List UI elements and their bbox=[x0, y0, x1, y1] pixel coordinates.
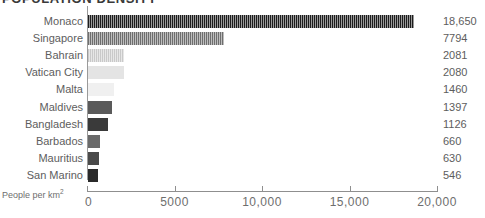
bar-hatch-pattern bbox=[88, 15, 414, 28]
bar-mauritius bbox=[88, 152, 99, 165]
bar-row: Bahrain2081 bbox=[0, 49, 485, 62]
bar-row: Barbados660 bbox=[0, 135, 485, 148]
bar-fill bbox=[88, 135, 100, 148]
x-tick-0 bbox=[87, 186, 88, 192]
bar-san-marino bbox=[88, 169, 98, 182]
population-density-chart: POPULATION DENSITY People per km2 050001… bbox=[0, 0, 485, 218]
bar-row: San Marino546 bbox=[0, 169, 485, 182]
category-label-bangladesh: Bangladesh bbox=[25, 119, 83, 130]
bar-row: Vatican City2080 bbox=[0, 66, 485, 79]
x-tick-label-20000: 20,000 bbox=[417, 195, 457, 209]
value-label-barbados: 660 bbox=[443, 136, 461, 147]
x-tick-5000 bbox=[175, 186, 176, 192]
x-tick-15000 bbox=[350, 186, 351, 192]
x-tick-label-5000: 5000 bbox=[160, 195, 189, 209]
value-label-vatican-city: 2080 bbox=[443, 67, 467, 78]
bar-fill bbox=[88, 83, 114, 96]
bar-barbados bbox=[88, 135, 100, 148]
x-axis-title-text: People per km bbox=[2, 190, 60, 200]
value-label-monaco: 18,650 bbox=[443, 16, 477, 27]
bar-singapore bbox=[88, 32, 224, 45]
category-label-vatican-city: Vatican City bbox=[25, 67, 83, 78]
plot-area: People per km2 0500010,00015,00020,000 M… bbox=[0, 0, 485, 218]
x-axis-title-superscript: 2 bbox=[60, 188, 64, 195]
bar-row: Bangladesh1126 bbox=[0, 118, 485, 131]
x-tick-10000 bbox=[262, 186, 263, 192]
category-label-singapore: Singapore bbox=[33, 33, 83, 44]
bar-fill bbox=[88, 118, 108, 131]
value-label-singapore: 7794 bbox=[443, 33, 467, 44]
category-label-maldives: Maldives bbox=[40, 102, 83, 113]
bar-row: Maldives1397 bbox=[0, 101, 485, 114]
bar-fill bbox=[88, 169, 98, 182]
bar-row: Mauritius630 bbox=[0, 152, 485, 165]
bar-row: Malta1460 bbox=[0, 83, 485, 96]
bar-fill bbox=[88, 66, 124, 79]
bar-hatch-pattern bbox=[88, 32, 224, 45]
bar-row: Monaco18,650 bbox=[0, 15, 485, 28]
bar-fill bbox=[88, 49, 124, 62]
category-label-malta: Malta bbox=[56, 84, 83, 95]
value-label-bangladesh: 1126 bbox=[443, 119, 467, 130]
x-tick-label-10000: 10,000 bbox=[242, 195, 282, 209]
value-label-maldives: 1397 bbox=[443, 102, 467, 113]
x-tick-20000 bbox=[437, 186, 438, 192]
bar-malta bbox=[88, 83, 114, 96]
bar-vatican-city bbox=[88, 66, 124, 79]
x-axis-title: People per km2 bbox=[2, 188, 64, 200]
bar-bangladesh bbox=[88, 118, 108, 131]
bar-hatch-pattern bbox=[88, 49, 124, 62]
bar-fill bbox=[88, 101, 112, 114]
bar-monaco bbox=[88, 15, 414, 28]
value-label-bahrain: 2081 bbox=[443, 50, 467, 61]
category-label-bahrain: Bahrain bbox=[45, 50, 83, 61]
bar-fill bbox=[88, 15, 414, 28]
x-tick-label-0: 0 bbox=[85, 195, 92, 209]
value-label-mauritius: 630 bbox=[443, 153, 461, 164]
bar-fill bbox=[88, 152, 99, 165]
category-label-monaco: Monaco bbox=[44, 16, 83, 27]
bar-fill bbox=[88, 32, 224, 45]
bar-bahrain bbox=[88, 49, 124, 62]
category-label-barbados: Barbados bbox=[36, 136, 83, 147]
x-tick-label-15000: 15,000 bbox=[330, 195, 370, 209]
bar-row: Singapore7794 bbox=[0, 32, 485, 45]
value-label-malta: 1460 bbox=[443, 84, 467, 95]
category-label-san-marino: San Marino bbox=[27, 170, 83, 181]
value-label-san-marino: 546 bbox=[443, 170, 461, 181]
bar-maldives bbox=[88, 101, 112, 114]
category-label-mauritius: Mauritius bbox=[38, 153, 83, 164]
